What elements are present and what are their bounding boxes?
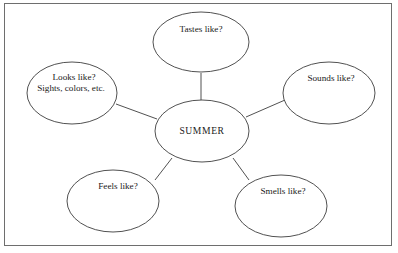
node-tastes[interactable]: Tastes like? bbox=[153, 12, 249, 72]
node-looks[interactable]: Looks like? Sights, colors, etc. bbox=[27, 62, 117, 124]
connector-center-to-feels bbox=[155, 158, 172, 180]
node-tastes-ellipse[interactable] bbox=[153, 12, 249, 72]
node-sounds-ellipse[interactable] bbox=[283, 62, 375, 124]
node-feels-label: Feels like? bbox=[98, 181, 138, 191]
center-label: SUMMER bbox=[179, 125, 224, 136]
node-feels[interactable]: Feels like? bbox=[67, 170, 159, 232]
node-smells[interactable]: Smells like? bbox=[235, 175, 327, 237]
node-looks-label-line1: Looks like? bbox=[52, 72, 95, 82]
node-looks-label-line2: Sights, colors, etc. bbox=[37, 83, 105, 93]
node-smells-label: Smells like? bbox=[260, 186, 305, 196]
node-sounds-label: Sounds like? bbox=[307, 73, 354, 83]
connector-center-to-smells bbox=[233, 158, 249, 180]
connector-center-to-looks bbox=[116, 104, 157, 119]
node-center-summer[interactable]: SUMMER bbox=[155, 100, 249, 162]
worksheet-canvas: Tastes like? Sounds like? Smells like? F… bbox=[0, 0, 398, 253]
node-feels-ellipse[interactable] bbox=[67, 170, 159, 232]
sense-web-diagram: Tastes like? Sounds like? Smells like? F… bbox=[0, 0, 398, 253]
node-smells-ellipse[interactable] bbox=[235, 175, 327, 237]
connector-center-to-sounds bbox=[246, 100, 285, 117]
node-tastes-label: Tastes like? bbox=[180, 24, 223, 34]
node-sounds[interactable]: Sounds like? bbox=[283, 62, 375, 124]
